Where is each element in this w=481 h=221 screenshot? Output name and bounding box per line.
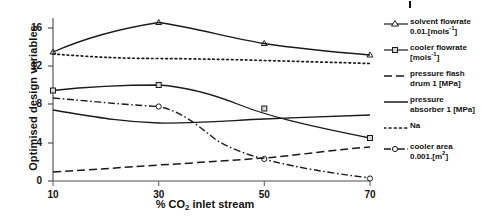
- legend-item-pressure-absorber: pressure absorber 1 [MPa]: [384, 95, 481, 115]
- legend-label-line1: pressure flash: [410, 69, 465, 78]
- square-marker-icon: [384, 44, 408, 56]
- y-tick-label-12: 12: [18, 60, 42, 71]
- series-line-solvent-flowrate: [53, 23, 370, 56]
- legend-label-line1: pressure: [410, 95, 444, 104]
- legend-item-pressure-flash-drum: pressure flash drum 1 [MPa]: [384, 69, 481, 89]
- series-markers-cooler-flowrate: [51, 83, 373, 141]
- circle-marker-icon: [384, 143, 408, 155]
- legend-label-line1: cooler flowrate: [410, 43, 467, 52]
- chart-legend: solvent flowrate 0.01.[mols-1] cooler fl…: [384, 17, 481, 168]
- legend-label-line2-prefix: 0.01.[mols: [410, 27, 449, 36]
- series-line-cooler-flowrate: [53, 85, 370, 138]
- legend-label-line1: Na: [410, 121, 420, 130]
- legend-label-line2-prefix: drum 1 [MPa]: [410, 79, 461, 88]
- series-line-cooler-area: [53, 98, 370, 178]
- legend-label-cooler-flowrate: cooler flowrate [mols-1]: [408, 43, 467, 63]
- x-axis-title-prefix: % CO: [156, 198, 185, 210]
- legend-item-cooler-flowrate: cooler flowrate [mols-1]: [384, 43, 481, 63]
- legend-label-line2-prefix: absorber 1 [MPa]: [410, 105, 475, 114]
- x-axis-title-suffix: inlet stream: [189, 198, 254, 210]
- triangle-marker-icon: [384, 18, 408, 30]
- legend-item-na: Na: [384, 121, 481, 134]
- legend-label-solvent-flowrate: solvent flowrate 0.01.[mols-1]: [408, 17, 471, 37]
- series-line-pressure-flash: [53, 147, 370, 172]
- legend-label-line2-suffix: ]: [445, 152, 448, 161]
- legend-label-na: Na: [408, 121, 420, 131]
- series-line-na: [53, 54, 370, 64]
- x-axis-title-subscript: 2: [185, 203, 189, 212]
- y-tick-label-16: 16: [18, 22, 42, 33]
- legend-label-line2-prefix: 0.001.[m: [410, 152, 442, 161]
- dashed-line-icon: [384, 70, 408, 82]
- x-axis-title: % CO2 inlet stream: [40, 198, 370, 210]
- y-tick-label-4: 4: [18, 137, 42, 148]
- legend-item-cooler-area: cooler area 0.001.[m2]: [384, 142, 481, 162]
- top-margin-tick-icon: [409, 1, 411, 8]
- solid-line-icon: [384, 96, 408, 108]
- y-tick-label-8: 8: [18, 98, 42, 109]
- chart-figure: Optimised design variables 16 12 8 4 0 1…: [0, 0, 481, 221]
- legend-label-pressure-flash-drum: pressure flash drum 1 [MPa]: [408, 69, 465, 89]
- legend-label-line2-suffix: ]: [454, 27, 457, 36]
- legend-label-line2-suffix: ]: [437, 53, 440, 62]
- legend-label-pressure-absorber: pressure absorber 1 [MPa]: [408, 95, 475, 115]
- y-tick-label-0: 0: [18, 175, 42, 186]
- legend-label-line1: solvent flowrate: [410, 17, 471, 26]
- legend-label-cooler-area: cooler area 0.001.[m2]: [408, 142, 453, 162]
- dotted-line-icon: [384, 122, 408, 134]
- series-line-pressure-absorber: [53, 110, 370, 123]
- legend-item-solvent-flowrate: solvent flowrate 0.01.[mols-1]: [384, 17, 481, 37]
- x-axis-ticks: [53, 181, 370, 186]
- legend-label-line2-prefix: [mols: [410, 53, 431, 62]
- legend-label-line1: cooler area: [410, 142, 453, 151]
